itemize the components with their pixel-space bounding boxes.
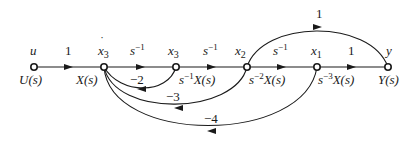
label-u: u xyxy=(30,43,37,58)
label-X-s: X(s) xyxy=(75,72,98,87)
label-x2: x2 xyxy=(234,43,246,60)
gain-feedback-2: −2 xyxy=(130,72,144,87)
arrow-left-icon xyxy=(174,105,183,111)
arrow-right-icon xyxy=(277,64,286,70)
node-x1 xyxy=(314,64,320,70)
label-x3: x3 xyxy=(167,43,179,60)
arrow-right-icon xyxy=(347,64,356,70)
node-u xyxy=(31,64,37,70)
gain-x2-x1: s−1 xyxy=(273,42,288,58)
gain-feedback-4: −4 xyxy=(204,111,218,126)
gain-x3-x2: s−1 xyxy=(203,42,218,58)
label-Y-s: Y(s) xyxy=(378,72,399,87)
gain-u-x: 1 xyxy=(65,43,72,58)
label-x1: x1 xyxy=(310,43,322,60)
dot-accent: ˙ xyxy=(100,34,104,48)
node-y xyxy=(385,64,391,70)
label-s-3-X-s: s−3X(s) xyxy=(318,71,354,87)
arrow-left-icon xyxy=(207,128,216,134)
arrow-right-icon xyxy=(313,24,322,30)
label-s-2-X-s: s−2X(s) xyxy=(249,71,285,87)
node-x3 xyxy=(173,64,179,70)
label-U-s: U(s) xyxy=(19,72,42,87)
gain-x1-y: 1 xyxy=(348,43,355,58)
gain-feedforward: 1 xyxy=(316,6,323,21)
arrow-right-icon xyxy=(136,64,145,70)
label-s-1-X-s: s−1X(s) xyxy=(179,71,215,87)
label-y: y xyxy=(384,43,392,58)
node-x xyxy=(101,64,107,70)
arrow-right-icon xyxy=(64,64,73,70)
node-x2 xyxy=(244,64,250,70)
gain-x-x3: s−1 xyxy=(130,42,145,58)
arrow-right-icon xyxy=(207,64,216,70)
signal-flow-graph: u x3 ˙ x3 x2 x1 y U(s) X(s) s−1X(s) s−2X… xyxy=(0,0,419,144)
gain-feedback-3: −3 xyxy=(166,89,180,104)
